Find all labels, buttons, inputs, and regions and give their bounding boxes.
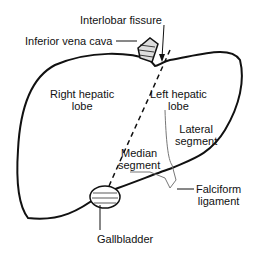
label-line: Left hepatic (150, 88, 207, 100)
label-line: Median (118, 147, 160, 159)
label-line: lobe (150, 100, 207, 112)
label-left-hepatic-lobe: Left hepatic lobe (150, 88, 207, 112)
label-gallbladder: Gallbladder (97, 233, 153, 245)
gallbladder-shape (90, 186, 120, 208)
label-line: Right hepatic (50, 88, 114, 100)
label-line: segment (118, 159, 160, 171)
label-line: ligament (196, 195, 241, 207)
label-line: segment (175, 135, 217, 147)
inferior-vena-cava-shape (138, 38, 158, 62)
label-right-hepatic-lobe: Right hepatic lobe (50, 88, 114, 112)
label-interlobar-fissure: Interlobar fissure (80, 14, 162, 26)
label-median-segment: Median segment (118, 147, 160, 171)
label-line: Lateral (175, 123, 217, 135)
label-lateral-segment: Lateral segment (175, 123, 217, 147)
label-line: lobe (50, 100, 114, 112)
label-inferior-vena-cava: Inferior vena cava (25, 35, 112, 47)
label-line: Falciform (196, 183, 241, 195)
label-falciform-ligament: Falciform ligament (196, 183, 241, 207)
